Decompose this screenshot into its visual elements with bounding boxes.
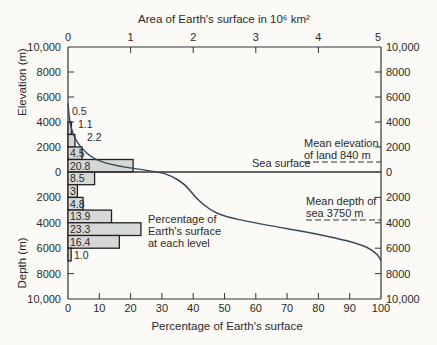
bottom-tick-label: 10 (93, 302, 105, 314)
bottom-tick-label: 60 (250, 302, 262, 314)
top-tick-label: 3 (253, 31, 259, 43)
mean-elevation-label-line2: of land 840 m (304, 149, 371, 161)
left-tick-label: 6000 (37, 242, 61, 254)
left-tick-label: 10,000 (27, 41, 61, 53)
bar-value-label: 2.2 (87, 131, 102, 143)
left-tick-label: 0 (55, 166, 61, 178)
bar-legend-line1: Percentage of (148, 213, 217, 225)
top-axis-title: Area of Earth's surface in 10⁶ km² (138, 13, 310, 25)
percentage-bar (68, 248, 71, 261)
hypsographic-chart: Area of Earth's surface in 10⁶ km² 01234… (0, 0, 437, 345)
bottom-tick-label: 20 (124, 302, 136, 314)
bar-value-label: 23.3 (70, 223, 91, 235)
mean-elevation-label-line1: Mean elevation (304, 137, 379, 149)
top-tick-label: 1 (128, 31, 134, 43)
bar-value-label: 8.5 (70, 172, 85, 184)
top-tick-label: 5 (375, 31, 381, 43)
right-axis-ticks: 10,0008000600040002000020004000600080001… (375, 41, 420, 305)
right-tick-label: 8000 (386, 66, 410, 78)
left-tick-label: 4000 (37, 116, 61, 128)
top-tick-label: 2 (190, 31, 196, 43)
percentage-bars: 0.51.12.24.520.88.534.813.923.316.41.0 (68, 105, 141, 261)
right-tick-label: 6000 (386, 242, 410, 254)
bar-value-label: 4.8 (70, 198, 85, 210)
bar-value-label: 1.1 (78, 118, 93, 130)
right-tick-label: 4000 (386, 116, 410, 128)
bottom-axis-title: Percentage of Earth's surface (151, 320, 302, 332)
bar-legend-line2: Earth's surface (148, 225, 221, 237)
bar-value-label: 1.0 (74, 249, 89, 261)
bottom-tick-label: 70 (281, 302, 293, 314)
bottom-tick-label: 30 (156, 302, 168, 314)
top-axis-ticks: 012345 (65, 31, 381, 53)
right-tick-label: 6000 (386, 91, 410, 103)
right-tick-label: 8000 (386, 268, 410, 280)
left-tick-label: 2000 (37, 141, 61, 153)
bottom-tick-label: 0 (65, 302, 71, 314)
top-tick-label: 0 (65, 31, 71, 43)
bar-value-label: 13.9 (70, 210, 91, 222)
bottom-tick-label: 50 (218, 302, 230, 314)
left-tick-label: 2000 (37, 191, 61, 203)
bar-value-label: 0.5 (72, 105, 87, 117)
bottom-tick-label: 90 (344, 302, 356, 314)
right-tick-label: 10,000 (386, 293, 420, 305)
bottom-tick-label: 40 (187, 302, 199, 314)
left-tick-label: 6000 (37, 91, 61, 103)
right-tick-label: 2000 (386, 141, 410, 153)
sea-surface-label: Sea surface (252, 157, 311, 169)
right-tick-label: 10,000 (386, 41, 420, 53)
right-tick-label: 2000 (386, 191, 410, 203)
elevation-axis-title: Elevation (m) (16, 48, 28, 116)
bar-value-label: 3 (70, 185, 76, 197)
bottom-tick-label: 80 (312, 302, 324, 314)
bar-value-label: 20.8 (70, 160, 91, 172)
top-tick-label: 4 (315, 31, 321, 43)
left-tick-label: 4000 (37, 217, 61, 229)
bar-value-label: 16.4 (70, 236, 91, 248)
mean-depth-label-line1: Mean depth of (306, 195, 377, 207)
plot-frame (68, 47, 381, 299)
mean-depth-label-line2: sea 3750 m (306, 207, 363, 219)
left-tick-label: 10,000 (27, 293, 61, 305)
left-axis-ticks: 10,0008000600040002000020004000600080001… (27, 41, 74, 305)
right-tick-label: 0 (386, 166, 392, 178)
bar-legend-line3: at each level (148, 237, 210, 249)
left-tick-label: 8000 (37, 66, 61, 78)
bottom-axis-ticks: 0102030405060708090100 (65, 293, 390, 314)
left-tick-label: 8000 (37, 268, 61, 280)
depth-axis-title: Depth (m) (16, 237, 28, 288)
right-tick-label: 4000 (386, 217, 410, 229)
